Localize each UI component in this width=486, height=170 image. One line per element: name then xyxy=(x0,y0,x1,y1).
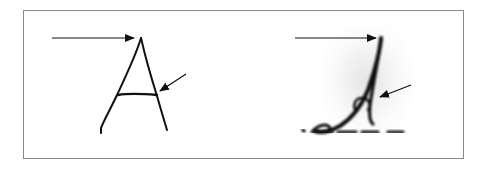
left-crossbar-arrow xyxy=(160,74,186,91)
printed-letter-a xyxy=(101,38,167,133)
figure-drawing xyxy=(0,0,486,170)
right-crossbar-arrow xyxy=(380,85,411,97)
cursive-letter-a xyxy=(314,38,381,132)
